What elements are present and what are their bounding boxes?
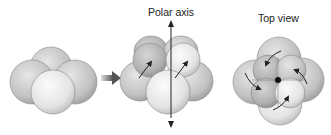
central-axis-dot	[275, 77, 281, 83]
lower-front-sphere	[146, 70, 190, 114]
tetrad-cluster	[10, 47, 97, 114]
polar-axis-label: Polar axis	[148, 6, 194, 18]
polar-axis-down-arrowhead	[168, 121, 174, 128]
transition-arrow	[101, 71, 121, 85]
polar-axis-up-arrowhead	[168, 20, 174, 27]
top-view-label: Top view	[258, 12, 299, 24]
sphere-front	[31, 70, 75, 114]
top-view	[233, 37, 324, 125]
side-view	[120, 20, 213, 128]
